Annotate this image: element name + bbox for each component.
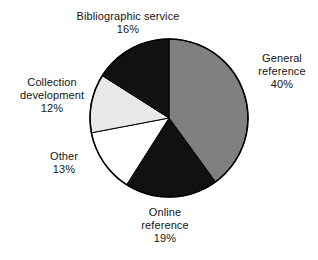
slice-label-collection-development-name-2: development bbox=[6, 89, 98, 102]
slice-label-online-reference-name-1: Online bbox=[112, 206, 218, 219]
slice-label-collection-development-value: 12% bbox=[6, 102, 98, 115]
slice-label-bibliographic-service-value: 16% bbox=[59, 23, 197, 36]
slice-label-bibliographic-service-name: Bibliographic service bbox=[59, 10, 197, 23]
slice-label-online-reference: Online reference 19% bbox=[112, 206, 218, 245]
slice-label-general-reference-value: 40% bbox=[250, 78, 314, 91]
slice-label-collection-development-name-1: Collection bbox=[6, 76, 98, 89]
slice-label-online-reference-name-2: reference bbox=[112, 219, 218, 232]
slice-label-general-reference: General reference 40% bbox=[250, 52, 314, 91]
slice-label-collection-development: Collection development 12% bbox=[6, 76, 98, 115]
slice-label-other-name: Other bbox=[36, 150, 92, 163]
slice-label-online-reference-value: 19% bbox=[112, 232, 218, 245]
pie-chart-figure: Bibliographic service 16% General refere… bbox=[0, 0, 318, 260]
slice-label-other-value: 13% bbox=[36, 163, 92, 176]
slice-label-general-reference-name-1: General bbox=[250, 52, 314, 65]
slice-label-general-reference-name-2: reference bbox=[250, 65, 314, 78]
slice-label-bibliographic-service: Bibliographic service 16% bbox=[59, 10, 197, 36]
slice-label-other: Other 13% bbox=[36, 150, 92, 176]
